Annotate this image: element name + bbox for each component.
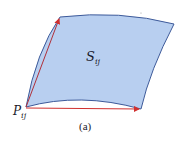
- point-label: Pij: [13, 104, 26, 118]
- surface-patch: [26, 15, 174, 109]
- figure-caption: (a): [79, 120, 91, 132]
- tangent-vector-u: [26, 108, 139, 109]
- speck: [140, 12, 141, 13]
- surface-label: Sij: [86, 49, 100, 64]
